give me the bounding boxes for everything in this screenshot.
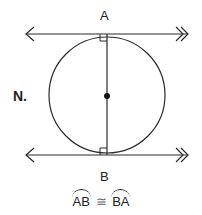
right-angle-mark-bottom [100,148,107,155]
point-label-b: B [100,169,109,184]
point-label-a: A [100,8,109,23]
arc-ba: BA [112,194,129,209]
center-point [104,93,110,99]
congruent-symbol: ≅ [96,194,107,209]
congruence-statement: AB ≅ BA [0,194,202,209]
arc-ab: AB [73,194,90,209]
figure-label: N. [13,88,27,104]
